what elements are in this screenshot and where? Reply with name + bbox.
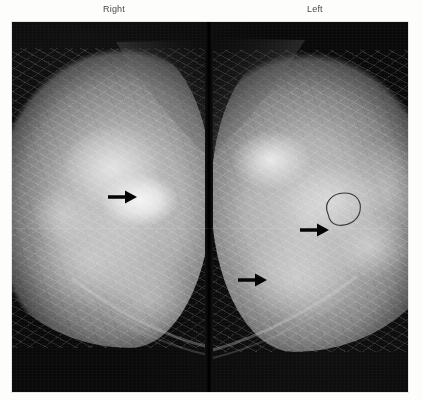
left-breast-texture	[211, 50, 408, 352]
mammogram-plate	[12, 22, 408, 392]
left-breast-lower-arrow	[238, 271, 268, 289]
panel-divider-hairline	[208, 22, 210, 392]
panel-left-breast	[211, 22, 408, 392]
side-label-right: Right	[103, 4, 125, 14]
panel-right-breast	[12, 22, 209, 392]
side-label-left: Left	[307, 4, 323, 14]
figure-label-row: Right Left	[0, 0, 423, 22]
right-breast-arrow	[108, 188, 138, 206]
left-breast-upper-arrow	[300, 221, 330, 239]
left-breast-tissue	[211, 50, 408, 352]
